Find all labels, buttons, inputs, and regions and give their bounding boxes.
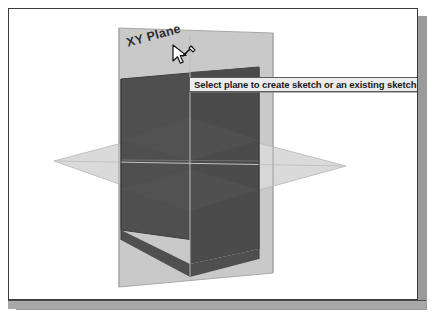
page-bottom-shadow-band (8, 300, 426, 309)
origin-planes-graphic (9, 9, 418, 300)
front-plane-right-band (190, 67, 259, 264)
screenshot-root: XY Plane Select plane to create sketch o… (0, 0, 433, 318)
cad-3d-viewport[interactable] (9, 9, 418, 300)
status-tooltip: Select plane to create sketch or an exis… (189, 77, 418, 92)
document-page: XY Plane Select plane to create sketch o… (8, 8, 418, 300)
